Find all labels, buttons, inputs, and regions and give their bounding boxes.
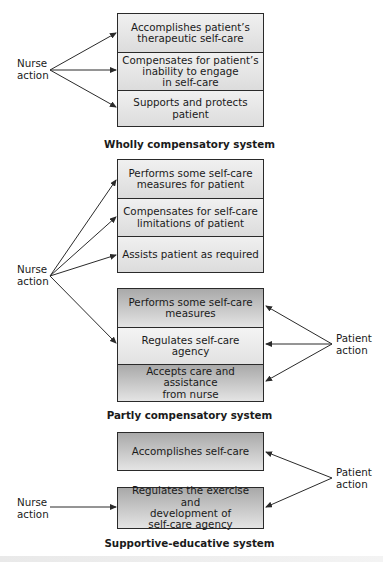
box-assists-patient: Assists patient as required: [118, 236, 263, 272]
caption-text: Supportive-educative system: [104, 537, 274, 549]
patient-action-label: Patient action: [336, 467, 372, 490]
nurse-action-label: Nurse action: [17, 264, 49, 287]
partly-nurse-stack: Performs some self-care measures for pat…: [117, 159, 264, 273]
box-regulates-agency: Regulates self-care agency: [118, 327, 263, 364]
caption-text: Wholly compensatory system: [104, 138, 275, 150]
partly-shared-stack: Performs some self-care measures Regulat…: [117, 288, 264, 402]
box-accomplishes-therapeutic-self-care: Accomplishes patient’s therapeutic self-…: [118, 14, 263, 52]
box-accepts-care: Accepts care and assistance from nurse: [118, 364, 263, 401]
supportive-box-a: Accomplishes self-care: [117, 432, 264, 471]
patient-arrow-3: [266, 344, 332, 381]
caption-text: Partly compensatory system: [107, 409, 273, 421]
patient-arrow-4: [266, 452, 332, 478]
nurse-arrow-6: [50, 255, 116, 276]
caption-partly-compensatory: Partly compensatory system: [0, 409, 383, 421]
box-performs-some-measures: Performs some self-care measures: [118, 289, 263, 327]
box-supports-protects: Supports and protects patient: [118, 90, 263, 126]
nurse-action-label: Nurse action: [17, 58, 49, 81]
nurse-arrow-4: [50, 180, 116, 276]
patient-arrow-5: [266, 478, 332, 507]
nurse-arrow-3: [50, 70, 116, 107]
box-accomplishes-self-care: Accomplishes self-care: [118, 433, 263, 470]
nurse-action-label: Nurse action: [17, 497, 49, 520]
bottom-strip: [0, 556, 383, 562]
box-compensates-inability: Compensates for patient’s inability to e…: [118, 52, 263, 90]
caption-wholly-compensatory: Wholly compensatory system: [0, 138, 383, 150]
patient-action-label: Patient action: [336, 333, 372, 356]
caption-supportive-educative: Supportive-educative system: [0, 537, 383, 549]
box-compensates-limitations: Compensates for self-care limitations of…: [118, 198, 263, 236]
supportive-box-b: Regulates the exercise and development o…: [117, 487, 264, 529]
nurse-arrow-5: [50, 217, 116, 276]
nurse-arrow-7: [50, 276, 116, 343]
patient-arrow-1: [266, 306, 332, 344]
box-regulates-exercise-development: Regulates the exercise and development o…: [118, 488, 263, 528]
nurse-arrow-1: [50, 33, 116, 70]
box-performs-measures-for-patient: Performs some self-care measures for pat…: [118, 160, 263, 198]
wholly-compensatory-stack: Accomplishes patient’s therapeutic self-…: [117, 13, 264, 127]
